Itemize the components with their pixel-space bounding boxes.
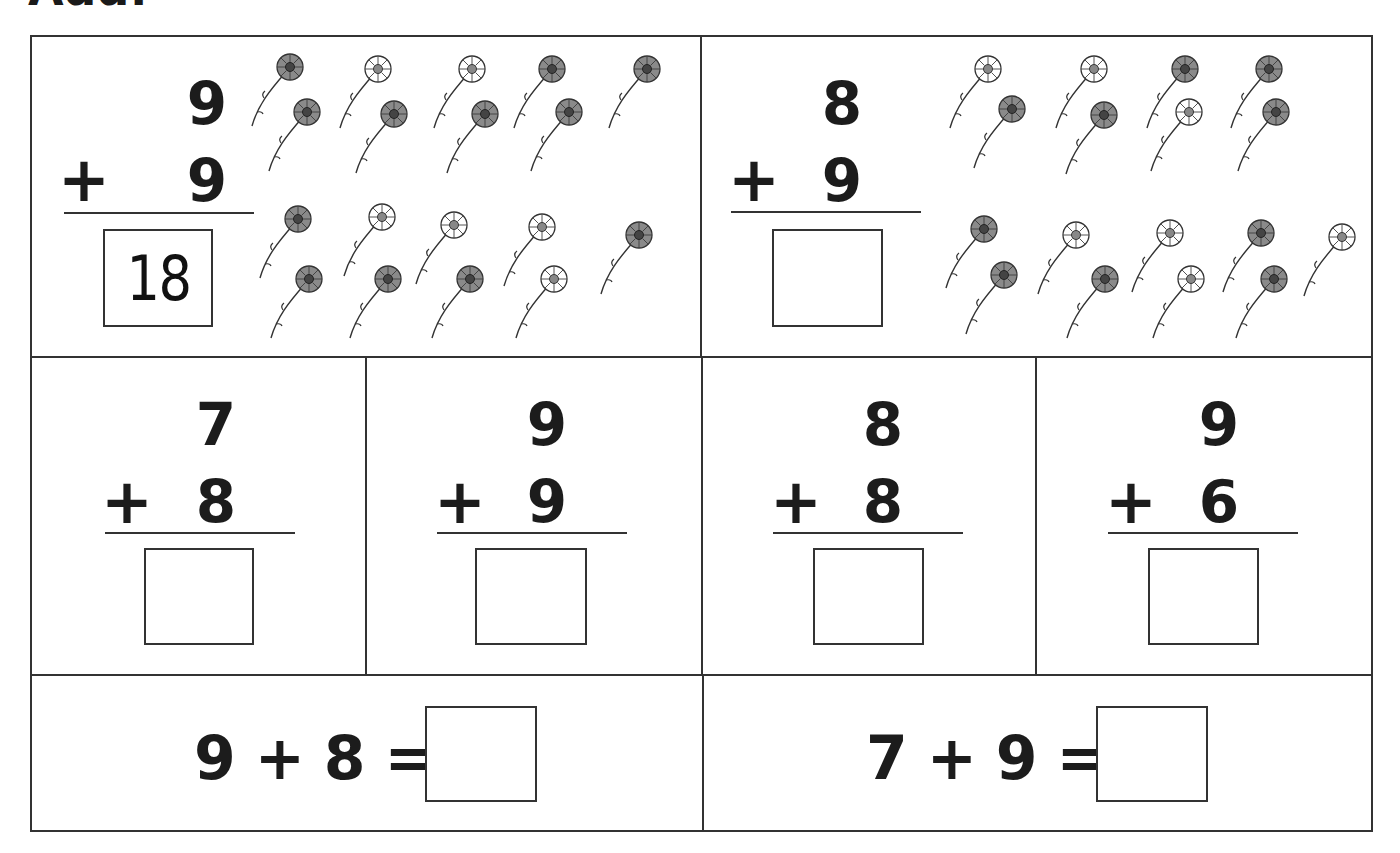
addend-bottom: 9 — [463, 473, 567, 531]
addend-top: 7 — [132, 396, 236, 454]
flower-icon — [1232, 262, 1290, 340]
equation: 7 + 9 = — [866, 728, 1106, 788]
flower-icon — [1063, 262, 1121, 340]
flower-icon — [605, 52, 663, 130]
horizontal-problem-1: 9 + 8 = — [32, 676, 702, 832]
flower-icon — [1149, 262, 1207, 340]
answer-box[interactable] — [425, 706, 537, 802]
addend-bottom: 6 — [1135, 473, 1239, 531]
addend-bottom: 9 — [122, 152, 227, 210]
plus-sign: + — [58, 149, 110, 211]
sum-rule — [105, 532, 295, 534]
vertical-problem-1: 7 + 8 — [32, 358, 365, 674]
vertical-problem-3: 8 + 8 — [703, 358, 1035, 674]
equation: 9 + 8 = — [194, 728, 434, 788]
flower-icon — [970, 92, 1028, 170]
flower-icon — [597, 218, 655, 296]
addend-top: 9 — [122, 75, 227, 133]
addend-bottom: 9 — [757, 152, 862, 210]
horizontal-problem-2: 7 + 9 = — [704, 676, 1372, 832]
flower-icon — [428, 262, 486, 340]
flower-icon — [1300, 220, 1358, 298]
flower-icon — [352, 97, 410, 175]
flower-icon — [962, 258, 1020, 336]
sum-rule — [731, 211, 921, 213]
addend-top: 9 — [463, 396, 567, 454]
vertical-problem-2: 9 + 9 — [367, 358, 701, 674]
answer-box[interactable] — [144, 548, 254, 645]
answer-box[interactable] — [1148, 548, 1259, 645]
flower-icon — [267, 262, 325, 340]
answer-value: 18 — [126, 242, 190, 315]
sum-rule — [1108, 532, 1298, 534]
answer-box[interactable] — [813, 548, 924, 645]
sum-rule — [773, 532, 963, 534]
sum-rule — [64, 212, 254, 214]
answer-box[interactable] — [772, 229, 883, 327]
flower-icon — [1062, 98, 1120, 176]
answer-box[interactable]: 18 — [103, 229, 213, 327]
flower-icon — [346, 262, 404, 340]
addend-top: 8 — [757, 75, 862, 133]
answer-box[interactable] — [475, 548, 587, 645]
flower-icon — [443, 97, 501, 175]
addend-bottom: 8 — [799, 473, 903, 531]
flower-icon — [512, 262, 570, 340]
flower-icon — [527, 95, 585, 173]
addend-top: 9 — [1135, 396, 1239, 454]
addend-top: 8 — [799, 396, 903, 454]
flower-icon — [1234, 95, 1292, 173]
flower-icon — [1147, 95, 1205, 173]
answer-box[interactable] — [1096, 706, 1208, 802]
sum-rule — [437, 532, 627, 534]
worksheet-title: Add: — [28, 0, 148, 12]
flower-icon — [265, 95, 323, 173]
addend-bottom: 8 — [132, 473, 236, 531]
vertical-problem-4: 9 + 6 — [1037, 358, 1372, 674]
